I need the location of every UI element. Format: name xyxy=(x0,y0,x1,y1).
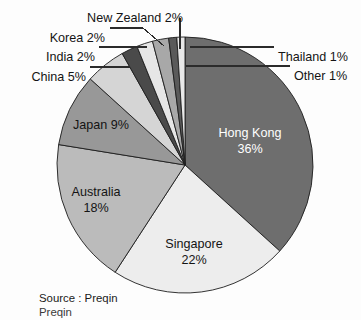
callout-label-new-zealand: New Zealand 2% xyxy=(87,11,183,25)
callout-label-thailand: Thailand 1% xyxy=(278,50,348,64)
callout-label-other: Other 1% xyxy=(294,69,347,83)
slice-label-value-australia: 18% xyxy=(83,201,108,215)
pie-chart-figure: Hong Kong 36%Singapore 22%Australia 18%J… xyxy=(0,0,361,320)
source-line-2: Preqin xyxy=(39,306,118,320)
slice-label-name-singapore: Singapore xyxy=(165,237,222,251)
source-line-1: Source : Preqin xyxy=(39,292,118,306)
slice-label-name-australia: Australia xyxy=(72,185,121,199)
source-note: Source : Preqin Preqin xyxy=(39,292,118,319)
slice-label-value-hong-kong: 36% xyxy=(237,142,262,156)
slice-label-name-japan: Japan 9% xyxy=(73,118,129,132)
callout-label-china: China 5% xyxy=(31,70,86,84)
slice-label-japan: Japan 9% xyxy=(73,118,129,132)
callout-label-korea: Korea 2% xyxy=(50,31,105,45)
pie-chart-svg: Hong Kong 36%Singapore 22%Australia 18%J… xyxy=(0,0,361,320)
slice-label-name-hong-kong: Hong Kong xyxy=(218,126,281,140)
slice-label-value-singapore: 22% xyxy=(181,253,206,267)
callout-label-india: India 2% xyxy=(46,50,95,64)
